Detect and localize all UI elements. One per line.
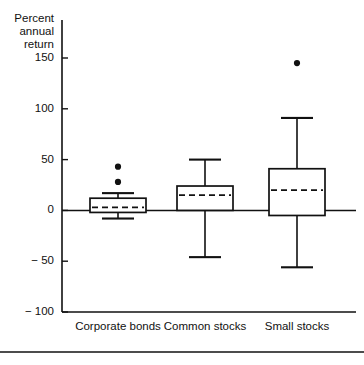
boxplot-figure: 150100500− 50− 100 Percentannualreturn C… <box>0 0 364 365</box>
category-label: Corporate bonds <box>75 320 161 332</box>
y-axis-tick-label: − 50 <box>31 254 54 266</box>
box-plot-corporate-bonds <box>90 164 146 219</box>
outlier-point <box>115 179 121 185</box>
category-label: Common stocks <box>164 320 247 332</box>
y-axis-title-line: annual <box>19 25 54 37</box>
y-axis-tick-label: 50 <box>41 153 54 165</box>
y-axis-title: Percentannualreturn <box>14 12 54 50</box>
box-plot-small-stocks <box>269 60 325 267</box>
outlier-point <box>294 60 300 66</box>
box-plot-common-stocks <box>177 160 233 258</box>
y-axis-title-line: return <box>24 38 54 50</box>
box-iqr <box>177 186 233 210</box>
category-labels: Corporate bondsCommon stocksSmall stocks <box>75 320 329 332</box>
box-iqr <box>269 169 325 216</box>
y-axis-tick-label: − 100 <box>25 305 54 317</box>
outlier-point <box>115 164 121 170</box>
y-axis-title-line: Percent <box>14 12 54 24</box>
y-axis-tick-label: 100 <box>35 102 54 114</box>
y-axis-tick-label: 150 <box>35 51 54 63</box>
box-series <box>90 60 325 267</box>
boxplot-canvas: 150100500− 50− 100 Percentannualreturn C… <box>0 0 364 365</box>
category-label: Small stocks <box>265 320 330 332</box>
box-iqr <box>90 198 146 212</box>
y-axis-tick-label: 0 <box>48 203 54 215</box>
y-axis: 150100500− 50− 100 <box>25 20 68 317</box>
